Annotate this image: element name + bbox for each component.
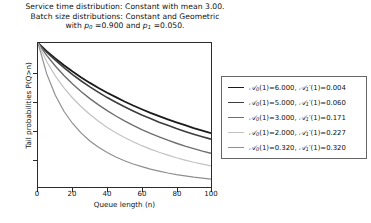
legend-item-0[interactable]: 𝒜0(1)=6.000, 𝒜1′(1)=0.004 xyxy=(225,80,363,95)
chart-title-line-3: with p0 =0.900 and p1 =0.050. xyxy=(0,21,250,33)
legend-label-3: 𝒜0(1)=2.000, 𝒜1′(1)=0.227 xyxy=(249,129,346,137)
legend-label-2: 𝒜0(1)=3.000, 𝒜1′(1)=0.171 xyxy=(249,114,346,122)
legend-line-swatch-1 xyxy=(228,102,244,103)
x-tick-label-60: 60 xyxy=(127,190,157,198)
legend-label-0: 𝒜0(1)=6.000, 𝒜1′(1)=0.004 xyxy=(249,84,346,92)
x-tick-label-0: 0 xyxy=(22,190,52,198)
title-line-3-middle: =0.900 and xyxy=(93,21,143,30)
curve-series-3 xyxy=(38,43,211,166)
curve-series-2 xyxy=(38,43,211,153)
legend-a0-value-3: 2.000 xyxy=(275,129,295,137)
title-line-3-prefix: with xyxy=(65,21,84,30)
legend-item-4[interactable]: 𝒜0(1)=0.320, 𝒜1′(1)=0.320 xyxy=(225,140,363,155)
legend-a1-value-2: 0.171 xyxy=(326,114,346,122)
legend-a1-value-0: 0.004 xyxy=(326,84,346,92)
legend-a0-value-4: 0.320 xyxy=(275,144,295,152)
title-line-3-suffix: =0.050. xyxy=(151,21,184,30)
legend-a0-value-0: 6.000 xyxy=(275,84,295,92)
legend-label-4: 𝒜0(1)=0.320, 𝒜1′(1)=0.320 xyxy=(249,144,346,152)
plot-area xyxy=(37,42,212,188)
legend-line-swatch-0 xyxy=(228,87,244,88)
y-axis-label: Tail probabilities P(Q>n) xyxy=(24,31,33,181)
x-tick-label-80: 80 xyxy=(162,190,192,198)
legend-a1-value-4: 0.320 xyxy=(326,144,346,152)
legend-a0-value-1: 5.000 xyxy=(275,99,295,107)
x-axis-label: Queue length (n) xyxy=(37,200,212,209)
x-tick-label-40: 40 xyxy=(92,190,122,198)
chart-title: Service time distribution: Constant with… xyxy=(0,2,250,33)
legend-item-2[interactable]: 𝒜0(1)=3.000, 𝒜1′(1)=0.171 xyxy=(225,110,363,125)
legend-label-1: 𝒜0(1)=5.000, 𝒜1′(1)=0.060 xyxy=(249,99,346,107)
curve-series-4 xyxy=(38,43,211,179)
chart-title-line-2: Batch size distributions: Constant and G… xyxy=(0,12,250,22)
x-tick-label-100: 100 xyxy=(196,190,226,198)
chart-title-line-1: Service time distribution: Constant with… xyxy=(0,2,250,12)
legend-item-3[interactable]: 𝒜0(1)=2.000, 𝒜1′(1)=0.227 xyxy=(225,125,363,140)
legend-a1-value-3: 0.227 xyxy=(326,129,346,137)
curve-group xyxy=(38,43,211,187)
legend-a1-value-1: 0.060 xyxy=(326,99,346,107)
legend-line-swatch-3 xyxy=(228,132,244,133)
legend-line-swatch-2 xyxy=(228,117,244,118)
x-tick-label-20: 20 xyxy=(57,190,87,198)
legend-box: 𝒜0(1)=6.000, 𝒜1′(1)=0.004 𝒜0(1)=5.000, 𝒜… xyxy=(221,76,367,159)
legend-line-swatch-4 xyxy=(228,147,244,148)
legend-a0-value-2: 3.000 xyxy=(275,114,295,122)
legend-item-1[interactable]: 𝒜0(1)=5.000, 𝒜1′(1)=0.060 xyxy=(225,95,363,110)
figure-container: Service time distribution: Constant with… xyxy=(0,0,371,223)
